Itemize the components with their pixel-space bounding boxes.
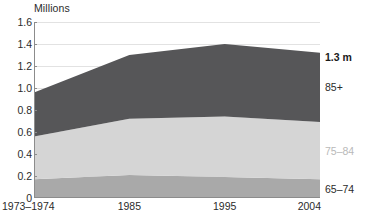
series-label-7584: 75–84 [325, 145, 354, 157]
x-tick-label: 1973–1974 [2, 200, 55, 212]
y-tick-label: 1.2 [2, 60, 32, 72]
series-label-6574: 65–74 [325, 183, 354, 195]
series-label-85+: 85+ [325, 81, 343, 93]
y-tick-label: 0.2 [2, 170, 32, 182]
plot-area [34, 22, 320, 198]
plot-svg [34, 22, 320, 198]
x-tick-label: 1985 [118, 200, 141, 212]
series-inline-labels: 1.3 m65–7475–8485+ [322, 0, 372, 224]
stacked-area-chart: Millions 00.20.40.60.81.01.21.41.6 1973–… [0, 0, 372, 224]
y-tick-label: 1.0 [2, 82, 32, 94]
x-axis-tick-labels: 1973–1974198519952004 [0, 200, 372, 220]
y-axis-tick-labels: 00.20.40.60.81.01.21.41.6 [0, 0, 32, 224]
y-axis-title: Millions [34, 2, 70, 14]
y-tick-label: 1.6 [2, 16, 32, 28]
x-tick-label: 2004 [298, 200, 321, 212]
y-tick-label: 1.4 [2, 38, 32, 50]
x-tick-label: 1995 [213, 200, 236, 212]
area-series-6574 [34, 175, 320, 198]
total-value-annotation: 1.3 m [325, 51, 352, 63]
y-tick-label: 0.6 [2, 126, 32, 138]
y-tick-label: 0.4 [2, 148, 32, 160]
y-tick-label: 0.8 [2, 104, 32, 116]
